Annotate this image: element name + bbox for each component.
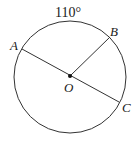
circle-diagram: 110° A B C O xyxy=(0,0,138,143)
center-label-o: O xyxy=(64,80,74,95)
point-label-c: C xyxy=(122,100,131,115)
center-point xyxy=(68,74,72,78)
point-label-a: A xyxy=(9,38,18,53)
radius-ob xyxy=(70,37,110,76)
point-label-b: B xyxy=(110,24,118,39)
arc-label: 110° xyxy=(55,5,81,20)
